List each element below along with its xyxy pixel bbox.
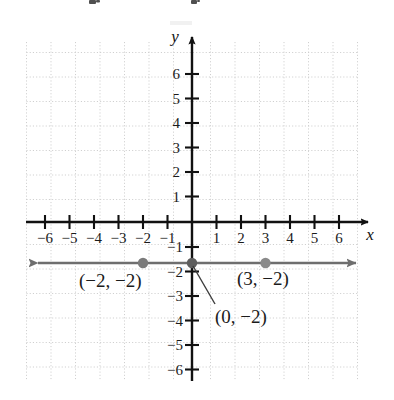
- data-point-neg2-neg2: [138, 258, 148, 268]
- y-axis-label: y: [169, 27, 179, 46]
- y-tick-label--2: −2: [167, 264, 183, 280]
- x-tick-label-6: 6: [335, 230, 343, 246]
- x-tick-label--3: −3: [111, 230, 127, 246]
- point-label-0-neg2: (0, −2): [215, 306, 267, 328]
- x-axis-label: x: [365, 225, 374, 244]
- coordinate-plane-svg: −6 −5 −4 −3 −2 −1 1 2 3 4 5 6 6 5 4 3 2 …: [0, 0, 394, 400]
- y-tick-label--4: −4: [167, 313, 183, 329]
- y-tick-label-4: 4: [173, 115, 181, 131]
- x-tick-label-5: 5: [311, 230, 319, 246]
- y-tick-label--1: −1: [167, 239, 183, 255]
- canvas-background: [0, 0, 394, 400]
- y-tick-label-3: 3: [173, 140, 181, 156]
- y-tick-label-2: 2: [173, 164, 181, 180]
- x-tick-label--4: −4: [86, 230, 102, 246]
- point-label-neg2-neg2: (−2, −2): [79, 270, 142, 292]
- y-tick-label--6: −6: [167, 362, 183, 378]
- data-point-0-neg2: [187, 258, 197, 268]
- y-tick-label-1: 1: [173, 189, 181, 205]
- x-tick-label--5: −5: [62, 230, 78, 246]
- point-label-3-neg2: (3, −2): [237, 268, 289, 290]
- x-tick-label-3: 3: [262, 230, 270, 246]
- data-point-3-neg2: [260, 258, 270, 268]
- x-tick-label-2: 2: [237, 230, 245, 246]
- x-tick-label--6: −6: [37, 230, 53, 246]
- y-tick-label--5: −5: [167, 337, 183, 353]
- x-tick-label-1: 1: [213, 230, 221, 246]
- y-tick-label--3: −3: [167, 288, 183, 304]
- y-tick-label-5: 5: [173, 91, 181, 107]
- x-tick-label-4: 4: [286, 230, 294, 246]
- graph-figure: −6 −5 −4 −3 −2 −1 1 2 3 4 5 6 6 5 4 3 2 …: [0, 0, 394, 400]
- y-tick-label-6: 6: [173, 66, 181, 82]
- x-tick-label--2: −2: [135, 230, 151, 246]
